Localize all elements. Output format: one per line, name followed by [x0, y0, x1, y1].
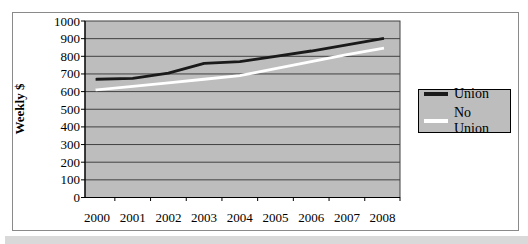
legend-item: No Union	[424, 105, 505, 137]
y-tick-label: 500	[38, 102, 80, 117]
bottom-page-band	[5, 236, 528, 244]
y-tick-label: 100	[38, 172, 80, 187]
legend: UnionNo Union	[418, 89, 511, 133]
y-tick-label: 300	[38, 137, 80, 152]
x-tick-label: 2008	[361, 210, 405, 225]
legend-label: No Union	[454, 105, 505, 137]
y-tick-label: 1000	[38, 14, 80, 29]
y-tick-label: 700	[38, 66, 80, 81]
y-tick-label: 900	[38, 31, 80, 46]
y-tick-label: 400	[38, 119, 80, 134]
y-tick-label: 200	[38, 155, 80, 170]
y-tick-label: 800	[38, 49, 80, 64]
y-axis-title: Weekly $	[12, 84, 28, 135]
y-tick-label: 0	[38, 190, 80, 205]
legend-line-swatch	[424, 119, 448, 123]
legend-item: Union	[424, 86, 505, 102]
legend-label: Union	[454, 86, 489, 102]
y-tick-label: 600	[38, 84, 80, 99]
legend-line-swatch	[424, 92, 448, 96]
